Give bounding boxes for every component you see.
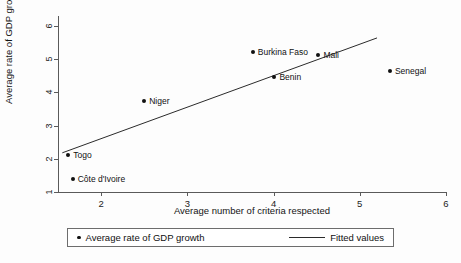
data-point-label: Benin [279,73,301,82]
y-tick-label: 3 [45,123,54,128]
data-point-label: Mali [323,50,339,59]
x-tick-mark [446,192,447,196]
data-point [251,50,255,54]
x-tick-mark [187,192,188,196]
x-tick-mark [360,192,361,196]
legend-entry-fitted: Fitted values [289,229,384,246]
x-tick-mark [274,192,275,196]
x-tick-label: 4 [271,199,276,209]
fitted-line-layer [58,16,446,192]
fitted-line-svg [58,16,446,192]
data-point-label: Burkina Faso [258,47,308,56]
legend-dot-icon [77,236,81,240]
x-tick-mark [101,192,102,196]
legend: Average rate of GDP growth Fitted values [67,228,394,247]
y-tick-mark [54,192,58,193]
y-axis-title: Average rate of GDP growth [4,0,14,104]
data-point-label: Senegal [395,67,426,76]
data-point-label: Niger [149,97,169,106]
data-point [71,177,75,181]
legend-label-fitted: Fitted values [330,233,384,243]
legend-line-icon [289,237,325,238]
data-point [388,69,392,73]
y-tick-label: 2 [45,156,54,161]
y-tick-label: 4 [45,90,54,95]
plot-area: 123456 23456 TogoCôte d'IvoireNigerBurki… [58,16,446,192]
data-point-label: Côte d'Ivoire [78,174,125,183]
data-point [142,99,146,103]
y-tick-label: 5 [45,57,54,62]
x-axis-line [58,192,446,193]
x-tick-label: 6 [443,199,448,209]
legend-entry-points: Average rate of GDP growth [77,229,205,246]
data-point [66,153,70,157]
scatter-plot-figure: Average rate of GDP growth Average numbe… [0,0,461,263]
legend-label-points: Average rate of GDP growth [86,233,205,243]
data-point [316,53,320,57]
x-tick-label: 5 [357,199,362,209]
x-tick-label: 2 [98,199,103,209]
data-point-label: Togo [73,151,91,160]
y-tick-label: 1 [45,189,54,194]
data-point [272,75,276,79]
y-tick-label: 6 [45,23,54,28]
x-axis-title: Average number of criteria respected [58,206,446,216]
x-tick-label: 3 [185,199,190,209]
